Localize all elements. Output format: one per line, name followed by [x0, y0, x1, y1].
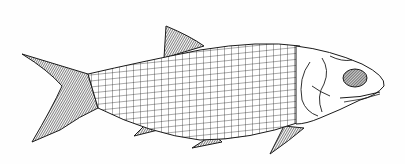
head	[296, 46, 384, 124]
fish-illustration: Line drawing of a fish with rectangular …	[0, 0, 405, 164]
fish-drawing	[0, 0, 405, 164]
body	[88, 44, 300, 140]
tail-fin	[22, 54, 98, 142]
eye	[343, 69, 367, 87]
